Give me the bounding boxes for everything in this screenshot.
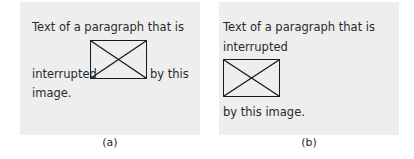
image-placeholder-icon [223, 59, 280, 97]
paragraph-line-2: interrupted [223, 40, 288, 54]
panel-inline-image: Text of a paragraph that is interrupted … [20, 2, 200, 135]
paragraph-text-before-image: interrupted [32, 67, 97, 81]
paragraph-line-1: Text of a paragraph that is [32, 20, 184, 34]
caption-a: (a) [90, 136, 130, 149]
paragraph-line-3: image. [32, 86, 71, 100]
paragraph-line-3: by this image. [223, 105, 305, 119]
caption-b: (b) [289, 136, 329, 149]
panel-block-image: Text of a paragraph that is interrupted … [219, 2, 399, 135]
paragraph-text-after-image: by this [150, 67, 189, 81]
image-placeholder-icon [90, 40, 147, 79]
paragraph-line-1: Text of a paragraph that is [223, 20, 375, 34]
